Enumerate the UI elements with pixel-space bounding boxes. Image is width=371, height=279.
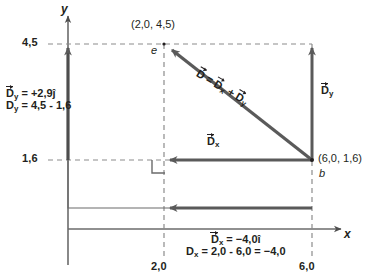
dy-equation-line-2: Dy = 4,5 - 1,6 xyxy=(6,100,71,112)
x-tick-20: 2,0 xyxy=(151,261,167,273)
dy-subscript: y xyxy=(329,89,333,98)
dx-eq-subscript: x xyxy=(219,238,223,247)
dx-eq2-subscript: x xyxy=(194,250,198,259)
right-angle-marker xyxy=(152,160,165,173)
dx-equation-line-2: Dx = 2,0 - 6,0 = −4,0 xyxy=(186,246,286,258)
point-e-name: e xyxy=(151,45,157,57)
y-tick-45: 4,5 xyxy=(22,37,38,49)
dx-subscript: x xyxy=(215,140,219,149)
point-b-dot xyxy=(310,158,314,162)
point-e-dot xyxy=(162,42,165,45)
vector-diagram-figure: y x 4,5 1,6 2,0 6,0 (2,0, 4,5) e (6,0, 1… xyxy=(0,0,371,279)
dy-eq-subscript: y xyxy=(14,92,18,101)
dy-equation-block: Dy = +2,9ĵ Dy = 4,5 - 1,6 xyxy=(6,88,71,111)
dx-eq-vector-symbol: D xyxy=(211,234,219,246)
vector-dy-label: Dy xyxy=(321,85,333,97)
point-b-name: b xyxy=(319,168,325,180)
dx-eq2-value: = 2,0 - 6,0 = −4,0 xyxy=(198,245,285,257)
dy-eq2-symbol: D xyxy=(6,99,14,111)
dx-equation-block: Dx = −4,0î Dx = 2,0 - 6,0 = −4,0 xyxy=(186,234,286,257)
vector-dx-label: Dx xyxy=(207,136,219,148)
dx-vector-symbol: D xyxy=(207,136,215,148)
dy-eq-value: = +2,9ĵ xyxy=(18,87,55,99)
x-tick-60: 6,0 xyxy=(299,261,315,273)
point-e-coords: (2,0, 4,5) xyxy=(131,19,175,31)
dy-eq2-value: = 4,5 - 1,6 xyxy=(18,99,71,111)
dy-eq2-subscript: y xyxy=(14,104,18,113)
point-b-coords: (6,0, 1,6) xyxy=(318,153,362,165)
dy-eq-vector-symbol: D xyxy=(6,88,14,100)
dy-vector-symbol: D xyxy=(321,85,329,97)
y-axis-label: y xyxy=(61,3,68,16)
x-axis-label: x xyxy=(344,228,351,241)
dx-eq-value: = −4,0î xyxy=(223,233,260,245)
dx-eq2-symbol: D xyxy=(186,245,194,257)
connector-left xyxy=(68,160,170,208)
y-tick-16: 1,6 xyxy=(22,153,38,165)
